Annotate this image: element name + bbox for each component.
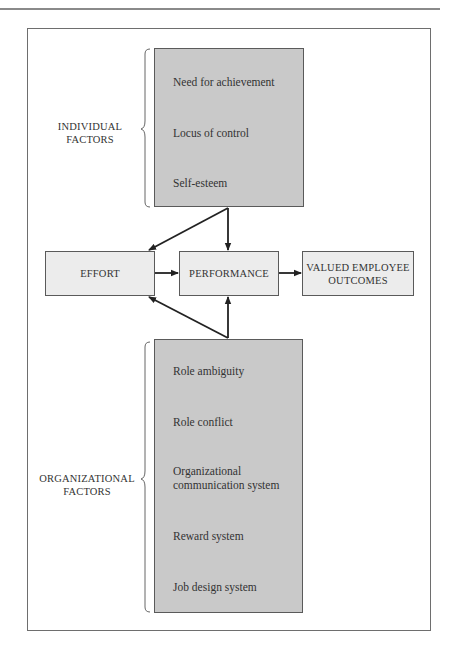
arrow-organizational-to-effort bbox=[149, 297, 228, 338]
individual-brace-icon bbox=[141, 49, 150, 207]
arrow-individual-to-effort bbox=[149, 208, 228, 250]
organizational-brace-icon bbox=[141, 342, 150, 612]
connectors-layer bbox=[0, 0, 453, 655]
